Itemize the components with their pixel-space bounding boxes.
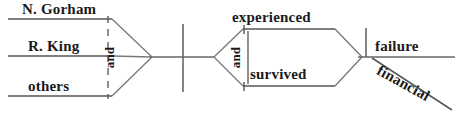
subject-join-middle	[112, 56, 152, 57]
object-label: failure	[375, 39, 419, 54]
verb-join-upper	[335, 29, 362, 57]
subject-label-2: R. King	[28, 39, 79, 54]
sentence-diagram: N. Gorham R. King others and experienced…	[0, 0, 457, 115]
verb-label-1: experienced	[232, 10, 311, 25]
subject-label-3: others	[28, 79, 69, 94]
subject-join-bottom	[112, 57, 152, 96]
subject-join-top	[112, 19, 152, 57]
subject-conjunction-label: and	[103, 44, 116, 72]
subject-label-1: N. Gorham	[22, 2, 96, 17]
verb-label-2: survived	[250, 67, 307, 82]
verb-conjunction-label: and	[229, 44, 242, 72]
verb-join-lower	[335, 57, 362, 86]
